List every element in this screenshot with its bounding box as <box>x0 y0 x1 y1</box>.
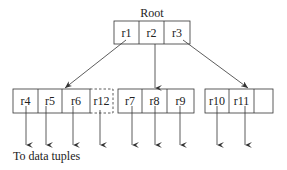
leaf-node-1: r4 r5 r6 r12 <box>13 89 113 113</box>
data-pointers <box>26 106 245 145</box>
leaf-cell-r10: r10 <box>209 94 225 108</box>
root-cell-r3: r3 <box>172 26 182 40</box>
leaf-node-3: r10 r11 <box>205 89 273 113</box>
root-cell-r1: r1 <box>122 26 132 40</box>
leaf-cell-r6: r6 <box>71 94 81 108</box>
root-node: Root r1 r2 r3 <box>114 6 190 44</box>
leaf-cell-r9: r9 <box>176 94 186 108</box>
leaf-cell-r4: r4 <box>21 94 31 108</box>
pointer-arrow <box>65 40 126 88</box>
leaf-cell-r11: r11 <box>234 94 250 108</box>
pointer-arrow <box>183 40 248 88</box>
leaf-cell-r12-dashed: r12 <box>94 94 110 108</box>
root-title: Root <box>140 6 164 20</box>
leaf-cell-r5: r5 <box>45 94 55 108</box>
footer-label: To data tuples <box>13 149 80 163</box>
leaf-cell-r7: r7 <box>125 94 135 108</box>
leaf-cell-r8: r8 <box>150 94 160 108</box>
leaf-node-2: r7 r8 r9 <box>118 89 194 113</box>
root-cell-r2: r2 <box>147 26 157 40</box>
b-tree-diagram: Root r1 r2 r3 r4 r5 r6 r12 r7 r8 r9 r10 … <box>0 0 287 170</box>
